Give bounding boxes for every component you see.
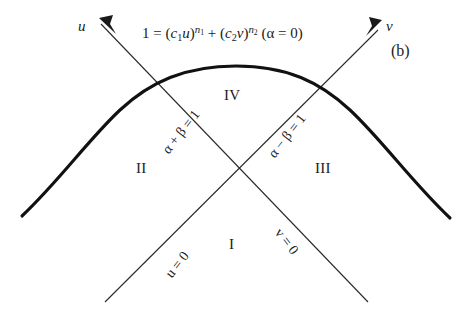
equation-lhs: 1 [142,25,150,41]
v-axis-label: v [386,19,393,34]
u-axis-label: u [78,19,86,34]
panel-caption: (b) [391,43,410,59]
equation-term-2: (c2v)n2 [220,25,258,41]
region-two-label: II [136,161,147,176]
boundary-equation: 1 = (c1u)n1 + (c2v)n2 (α = 0) [142,24,303,43]
equation-condition: (α = 0) [261,25,302,41]
equation-equals: = [153,25,161,41]
region-four-label: IV [224,88,240,103]
equation-term-1: (c1u)n1 [165,25,204,41]
equation-plus: + [208,25,216,41]
region-three-label: III [315,161,331,176]
region-one-label: I [229,237,234,252]
v-axis-arrowhead [366,17,382,36]
figure-container: u v 1 = (c1u)n1 + (c2v)n2 (α = 0) α + β … [0,0,471,327]
